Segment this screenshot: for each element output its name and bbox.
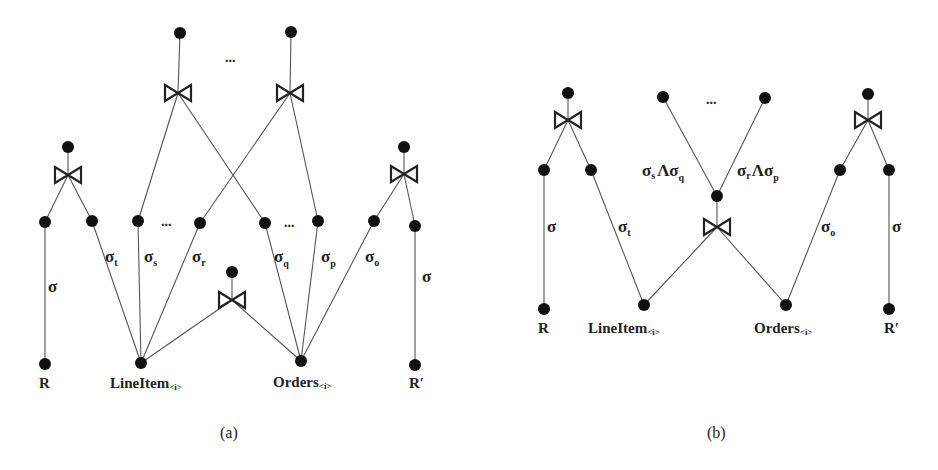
- ellipsis: ...: [284, 215, 295, 230]
- node: [259, 217, 271, 229]
- node: [226, 266, 238, 278]
- node: [834, 164, 846, 176]
- sigma-o-label: σo: [821, 217, 835, 238]
- node-r-prime: [409, 359, 421, 371]
- sigma-q-label: σq: [274, 247, 289, 269]
- query-plan-diagram: ... ... ... σ σt σs σr σq σp σo σ R Line…: [0, 0, 938, 470]
- node-orders: [780, 299, 792, 311]
- panel-a: ... ... ... σ σt σs σr σq σp σo σ R Line…: [39, 26, 432, 442]
- node: [39, 216, 51, 228]
- sigma-o-label: σo: [365, 247, 379, 268]
- caption-b: (b): [707, 424, 726, 442]
- node-r: [538, 303, 550, 315]
- caption-a: (a): [220, 424, 238, 442]
- sigma-t-label: σt: [105, 247, 118, 268]
- node-orders: [295, 355, 307, 367]
- sigma-s-and-q-label: σsΛσq: [642, 161, 685, 183]
- node: [368, 215, 380, 227]
- node: [285, 26, 297, 38]
- node: [759, 92, 771, 104]
- sigma-label: σ: [422, 267, 432, 286]
- relation-r-label: R: [39, 375, 50, 391]
- sigma-label: σ: [547, 217, 557, 236]
- node: [883, 164, 895, 176]
- relation-r-prime-label: R′: [884, 320, 899, 336]
- sigma-r-and-p-label: σrΛσp: [737, 161, 779, 183]
- node: [62, 141, 74, 153]
- node: [86, 215, 98, 227]
- node-lineitem: [638, 299, 650, 311]
- relation-lineitem-label: LineItem<i>: [110, 375, 182, 392]
- node: [562, 87, 574, 99]
- panel-b-nodes: [538, 87, 895, 315]
- node: [312, 215, 324, 227]
- sigma-label: σ: [892, 217, 902, 236]
- relation-orders-label: Orders<i>: [754, 320, 813, 337]
- node-lineitem: [135, 357, 147, 369]
- ellipsis: ...: [706, 92, 717, 107]
- node: [657, 91, 669, 103]
- sigma-label: σ: [48, 277, 58, 296]
- node: [538, 164, 550, 176]
- relation-r-prime-label: R′: [409, 375, 424, 391]
- sigma-r-label: σr: [192, 247, 206, 268]
- ellipsis: ...: [225, 50, 236, 65]
- panel-a-edges: [45, 32, 415, 365]
- panel-b: ... σ σt σsΛσq σrΛσp σo σ R LineItem<i> …: [538, 87, 902, 442]
- node-r-prime: [883, 303, 895, 315]
- relation-r-label: R: [538, 320, 549, 336]
- sigma-t-label: σt: [618, 217, 631, 238]
- node-r: [39, 358, 51, 370]
- sigma-p-label: σp: [321, 247, 336, 269]
- node: [585, 164, 597, 176]
- ellipsis: ...: [161, 214, 172, 229]
- node: [398, 141, 410, 153]
- node: [409, 220, 421, 232]
- sigma-s-label: σs: [144, 247, 157, 268]
- node: [862, 88, 874, 100]
- node: [132, 215, 144, 227]
- panel-a-nodes: [39, 26, 421, 371]
- node: [711, 190, 723, 202]
- node: [194, 217, 206, 229]
- node: [174, 27, 186, 39]
- relation-lineitem-label: LineItem<i>: [588, 320, 660, 337]
- relation-orders-label: Orders<i>: [273, 374, 332, 391]
